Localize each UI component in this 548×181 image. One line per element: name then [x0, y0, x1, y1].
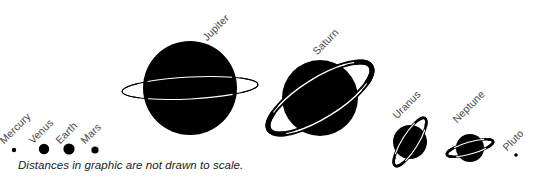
planet-jupiter — [122, 41, 259, 135]
planet-earth — [63, 143, 74, 154]
planet-body-mercury — [12, 148, 16, 152]
planet-saturn — [259, 49, 382, 147]
planet-venus — [39, 144, 49, 154]
solar-system-graphic: Distances in graphic are not drawn to sc… — [0, 0, 548, 181]
planet-body-mars — [91, 146, 98, 153]
planet-body-venus — [39, 144, 49, 154]
planets-canvas — [0, 0, 548, 181]
planet-mercury — [12, 148, 16, 152]
planet-mars — [91, 146, 98, 153]
planet-pluto — [514, 153, 518, 157]
planet-body-saturn — [282, 60, 358, 136]
planet-body-uranus — [393, 125, 427, 159]
planet-neptune — [445, 134, 494, 162]
planet-body-neptune — [456, 134, 484, 162]
planet-body-pluto — [514, 153, 518, 157]
planet-uranus — [388, 114, 431, 170]
scale-disclaimer-caption: Distances in graphic are not drawn to sc… — [18, 160, 243, 172]
planet-body-jupiter — [143, 41, 237, 135]
planet-body-earth — [63, 143, 74, 154]
